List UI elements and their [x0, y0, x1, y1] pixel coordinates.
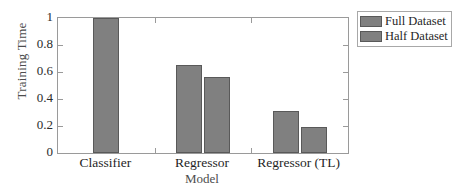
legend-label: Half Dataset [385, 30, 448, 43]
y-axis-tick-labels: 00.20.40.60.81 [25, 17, 53, 152]
x-axis-tick-label: Regressor (TL) [257, 155, 340, 171]
x-axis-tick-label: Regressor [175, 155, 229, 171]
y-axis-tick-mark [343, 72, 348, 73]
y-axis-tick-label: 0.6 [25, 63, 53, 79]
y-axis-tick-mark [58, 126, 63, 127]
y-axis-tick-mark [58, 72, 63, 73]
x-axis-tick-label: Classifier [79, 155, 131, 171]
legend-entry: Full Dataset [360, 14, 448, 29]
y-axis-tick-label: 0.8 [25, 36, 53, 52]
bar [273, 111, 299, 153]
y-axis-tick-mark [343, 45, 348, 46]
plot-area [57, 17, 349, 154]
y-axis-tick-mark [343, 99, 348, 100]
x-axis-tick-mark [155, 18, 156, 23]
plot-inner [58, 18, 348, 153]
x-axis-tick-mark [155, 148, 156, 153]
x-axis-tick-mark [251, 148, 252, 153]
y-axis-tick-label: 0 [25, 144, 53, 160]
y-axis-tick-label: 0.4 [25, 90, 53, 106]
y-axis-tick-label: 1 [25, 9, 53, 25]
chart-legend: Full DatasetHalf Dataset [357, 11, 452, 47]
y-axis-tick-mark [58, 99, 63, 100]
legend-entry: Half Dataset [360, 29, 448, 44]
bar [301, 127, 327, 153]
y-axis-tick-mark [58, 45, 63, 46]
y-axis-tick-mark [343, 126, 348, 127]
bar-chart-figure: Training Time 00.20.40.60.81 ClassifierR… [0, 0, 454, 192]
legend-label: Full Dataset [385, 15, 446, 28]
y-axis-tick-label: 0.2 [25, 117, 53, 133]
legend-swatch [360, 31, 382, 42]
bar [176, 65, 202, 153]
legend-swatch [360, 16, 382, 27]
bar [204, 77, 230, 153]
x-axis-title: Model [57, 171, 347, 187]
x-axis-tick-mark [251, 18, 252, 23]
bar [93, 18, 119, 153]
